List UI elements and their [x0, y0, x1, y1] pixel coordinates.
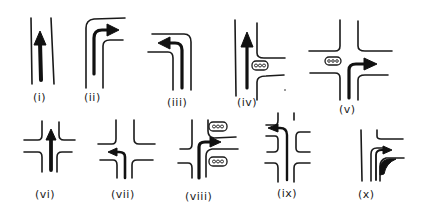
- traffic-signal-icon: [209, 122, 227, 131]
- road-edge-ne: [134, 120, 155, 144]
- arrow-straight-icon: [34, 31, 46, 80]
- road-edge-ne: [59, 122, 75, 140]
- road-edge-e-middle: [296, 132, 310, 152]
- road-edge-se: [132, 160, 153, 178]
- panel-ii: [86, 18, 125, 88]
- road-edge-ne: [358, 21, 392, 51]
- arrow-turn-right-icon: [94, 24, 119, 74]
- arrow-straight-icon: [46, 129, 56, 170]
- label-x: (x): [358, 188, 375, 201]
- arrow-turn-right-icon: [349, 58, 377, 98]
- label-iv: (iv): [237, 96, 257, 109]
- traffic-signal-icon: [209, 157, 227, 166]
- panel-i: [31, 18, 54, 84]
- arrow-straight-icon: [241, 32, 253, 88]
- label-vi: (vi): [35, 188, 55, 201]
- label-iii: (iii): [167, 96, 187, 109]
- road-edge-left: [361, 130, 362, 181]
- road-edge-nw: [180, 120, 192, 149]
- road-edge-sw: [178, 163, 192, 178]
- label-v: (v): [339, 103, 356, 116]
- road-edge-left: [235, 20, 236, 96]
- road-edge-nw: [98, 120, 116, 144]
- pictogram-svg: [0, 0, 426, 219]
- traffic-signal-icon: [252, 61, 268, 70]
- road-edge-upper: [377, 130, 403, 139]
- road-edge-left: [31, 18, 32, 84]
- road-edge-se: [358, 75, 388, 100]
- road-edge-se: [57, 152, 72, 172]
- road-edge-nw: [24, 121, 42, 140]
- road-edge-inner: [103, 40, 123, 88]
- road-edge-sw: [265, 163, 278, 182]
- panel-iii: [148, 34, 191, 90]
- panel-vi: [24, 121, 75, 172]
- panel-ix: [265, 113, 310, 182]
- panel-vii: [98, 120, 155, 178]
- diagram-canvas: (i) (ii) (iii) (iv) (v) (vi) (vii) (viii…: [0, 0, 426, 219]
- label-viii: (viii): [185, 190, 212, 203]
- label-vii: (vii): [111, 188, 135, 201]
- label-i: (i): [33, 91, 46, 104]
- road-edge-nw: [309, 20, 340, 51]
- road-edge-sw: [24, 152, 42, 172]
- panel-v: [309, 20, 392, 100]
- road-edge-sw: [100, 160, 117, 178]
- label-ix: (ix): [277, 187, 297, 200]
- label-ii: (ii): [84, 91, 101, 104]
- panel-iv: [235, 20, 285, 100]
- road-edge-w-middle: [266, 136, 278, 152]
- panel-viii: [178, 120, 238, 178]
- road-edge-lower: [257, 75, 284, 100]
- road-edge-sw: [310, 73, 340, 100]
- road-edge-inner: [148, 52, 173, 90]
- road-edge-se: [294, 163, 310, 182]
- merge-wedge-icon: [380, 159, 396, 175]
- panel-x: [361, 130, 404, 181]
- road-edge-right: [51, 18, 54, 84]
- road-edge-nw-top: [266, 113, 278, 125]
- road-edge-upper: [257, 23, 285, 58]
- traffic-signal-icon: [325, 57, 341, 65]
- arrow-turn-left-icon: [158, 37, 182, 88]
